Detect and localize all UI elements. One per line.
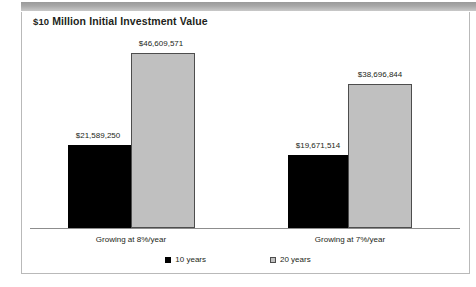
gray-square-icon (270, 257, 276, 263)
bar-10-years-group-1[interactable] (68, 145, 131, 228)
bar-value-label: $38,696,844 (300, 70, 460, 79)
legend-item-20-years[interactable]: 20 years (270, 255, 311, 264)
legend-item-10-years[interactable]: 10 years (165, 255, 206, 264)
category-label-group-2: Growing at 7%/year (270, 235, 430, 244)
chart-legend: 10 years 20 years (0, 255, 476, 264)
legend-label-20-years: 20 years (280, 255, 311, 264)
category-axis-line (30, 228, 460, 229)
legend-label-10-years: 10 years (175, 255, 206, 264)
category-label-group-1: Growing at 8%/year (51, 235, 211, 244)
plot-area: $21,589,250 $46,609,571 Growing at 8%/ye… (0, 0, 476, 287)
bar-value-label: $46,609,571 (81, 39, 241, 48)
black-square-icon (165, 257, 171, 263)
bar-10-years-group-2[interactable] (288, 155, 348, 228)
bar-20-years-group-1[interactable] (131, 53, 195, 228)
bar-20-years-group-2[interactable] (348, 84, 412, 228)
chart-figure: $10 Million Initial Investment Value $21… (0, 0, 476, 287)
